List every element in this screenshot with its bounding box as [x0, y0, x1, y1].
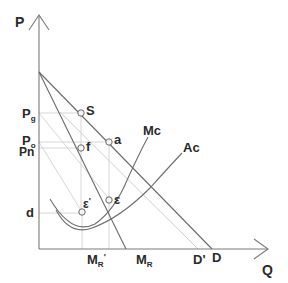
curve-label-ac: Ac: [183, 141, 200, 154]
quantity-label-mr-prime-sub: R: [98, 260, 104, 269]
quantity-label-d: D: [212, 251, 221, 264]
point-label-epsilon-prime-main: ε: [83, 197, 89, 211]
point-label-epsilon-prime: ε': [83, 198, 91, 210]
x-axis-label: Q: [262, 263, 273, 277]
point-s: [78, 110, 84, 116]
price-label-pn: Pn: [19, 146, 34, 158]
point-label-a: a: [114, 133, 121, 146]
quantity-label-mr-prime: MR': [87, 253, 106, 266]
price-label-pg: Pg: [22, 107, 36, 120]
quantity-label-mr-main: M: [136, 252, 147, 267]
quantity-label-mr: MR: [136, 253, 153, 266]
point-epsilon: [106, 197, 112, 203]
point-f: [78, 145, 84, 151]
point-label-f: f: [86, 140, 90, 153]
y-axis-label: P: [15, 15, 24, 29]
price-label-pg-main: P: [22, 106, 31, 121]
point-label-epsilon-prime-mark: ': [89, 196, 91, 206]
quantity-label-mr-prime-main: M: [87, 252, 98, 267]
curve-label-mc: Mc: [143, 124, 161, 137]
quantity-label-mr-prime-mark: ': [104, 252, 106, 262]
point-label-s: S: [86, 104, 95, 117]
quantity-label-d-prime: D': [193, 253, 205, 266]
price-label-d: d: [26, 206, 34, 219]
point-label-epsilon: ε: [114, 193, 120, 206]
point-a: [106, 139, 112, 145]
price-label-pg-sub: g: [31, 114, 36, 123]
quantity-label-mr-sub: R: [147, 260, 153, 269]
guide-from-po-diag: [39, 142, 82, 212]
monopoly-pricing-diagram: [0, 0, 288, 283]
